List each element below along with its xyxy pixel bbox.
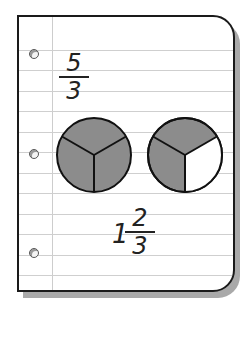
ruled-line [19, 111, 233, 112]
fraction-circle-two-thirds-icon [146, 116, 224, 194]
fraction-numerator: 2 [125, 206, 155, 230]
binder-hole-icon [29, 149, 39, 159]
fraction-circle-whole-icon [55, 116, 133, 194]
margin-line [52, 17, 53, 290]
ruled-line [19, 91, 233, 92]
fraction-denominator: 3 [59, 79, 89, 103]
fraction-numerator: 5 [59, 51, 89, 75]
mixed-number-fraction: 2 3 [125, 206, 155, 258]
notebook-paper: 5 3 1 2 3 [17, 15, 235, 292]
ruled-line [19, 50, 233, 51]
improper-fraction: 5 3 [59, 51, 89, 103]
binder-hole-icon [29, 49, 39, 59]
fraction-denominator: 3 [125, 234, 155, 258]
ruled-line [19, 70, 233, 71]
ruled-line [19, 275, 233, 276]
binder-hole-icon [29, 248, 39, 258]
